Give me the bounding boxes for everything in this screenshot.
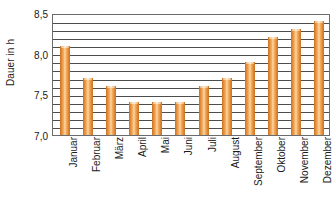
bar (268, 37, 278, 135)
y-axis-tick-label: 8,5 (34, 9, 48, 20)
bar-chart: Dauer in h 7,07,58,08,5 JanuarFebruarMär… (0, 0, 332, 204)
bar (60, 46, 70, 135)
y-axis-title: Dauer in h (0, 0, 22, 124)
bar (291, 29, 301, 135)
bar (83, 78, 93, 135)
x-axis-tick-label-text: Oktober (276, 137, 287, 173)
x-axis-tick-label-text: November (299, 137, 310, 183)
x-axis-tick-label-text: September (253, 137, 264, 186)
x-axis-tick-label-text: Mai (160, 137, 171, 153)
x-axis-tick-label: August (230, 137, 241, 168)
y-axis-tick-labels: 7,07,58,08,5 (20, 14, 50, 136)
bar (222, 78, 232, 135)
y-axis-tick-mark (52, 71, 53, 72)
bar-cap (292, 29, 300, 31)
bar-cap (246, 62, 254, 64)
x-axis-tick-label-text: Juni (183, 137, 194, 155)
y-axis-tick-mark (52, 96, 53, 97)
y-axis-tick-mark (52, 128, 53, 129)
y-axis-tick-mark (52, 15, 53, 16)
y-axis-tick-mark (52, 80, 53, 81)
x-axis-tick-label-text: Juli (207, 137, 218, 152)
y-axis-tick-mark (52, 39, 53, 40)
x-axis-tick-label: Dezember (322, 137, 332, 183)
bar-cap (107, 86, 115, 88)
bar (129, 102, 139, 135)
bar (152, 102, 162, 135)
bar-cap (153, 102, 161, 104)
y-axis-tick-mark (52, 55, 53, 56)
y-axis-tick-label: 7,5 (34, 90, 48, 101)
x-axis-tick-label: März (114, 137, 125, 159)
x-axis-tick-label: Februar (91, 137, 102, 172)
bar-cap (269, 37, 277, 39)
x-axis-tick-label: April (137, 137, 148, 157)
x-axis-tick-label-text: Dezember (322, 137, 332, 183)
x-axis-tick-labels: JanuarFebruarMärzAprilMaiJuniJuliAugustS… (52, 137, 330, 204)
x-axis-tick-label: Mai (160, 137, 171, 153)
x-axis-tick-label: Juni (183, 137, 194, 155)
y-axis-tick-label: 7,0 (34, 131, 48, 142)
plot-area (52, 14, 330, 136)
y-axis-tick-mark (52, 31, 53, 32)
bar-cap (223, 78, 231, 80)
x-axis-tick-label-text: August (230, 137, 241, 168)
x-axis-tick-label-text: März (114, 137, 125, 159)
y-axis-tick-mark (52, 23, 53, 24)
bar-cap (84, 78, 92, 80)
x-axis-tick-label-text: Januar (68, 137, 79, 168)
y-axis-tick-mark (52, 88, 53, 89)
bar (106, 86, 116, 135)
x-axis-tick-label-text: Februar (91, 137, 102, 172)
bar (199, 86, 209, 135)
y-axis-tick-mark (52, 120, 53, 121)
bar-cap (315, 21, 323, 23)
y-axis-tick-mark (52, 47, 53, 48)
bars-group (53, 15, 329, 135)
bar (175, 102, 185, 135)
x-axis-tick-label: November (299, 137, 310, 183)
y-axis-tick-mark (52, 112, 53, 113)
bar-cap (130, 102, 138, 104)
y-axis-tick-mark (52, 63, 53, 64)
x-axis-tick-label: Oktober (276, 137, 287, 173)
x-axis-tick-label-text: April (137, 137, 148, 157)
y-axis-tick-label: 8,0 (34, 49, 48, 60)
bar (314, 21, 324, 135)
bar-cap (176, 102, 184, 104)
y-axis-title-label: Dauer in h (6, 38, 17, 85)
x-axis-tick-label: Januar (68, 137, 79, 168)
bar (245, 62, 255, 135)
bar-cap (61, 46, 69, 48)
y-axis-tick-mark (52, 104, 53, 105)
x-axis-tick-label: September (253, 137, 264, 186)
x-axis-tick-label: Juli (207, 137, 218, 152)
bar-cap (200, 86, 208, 88)
